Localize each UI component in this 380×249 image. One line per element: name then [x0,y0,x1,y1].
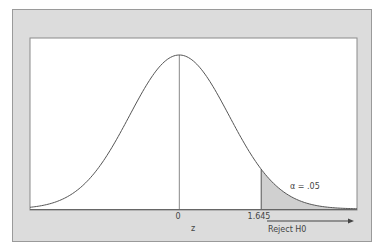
x-axis-label: z [191,224,195,233]
alpha-label: α = .05 [290,182,320,191]
arrow-right-icon [348,219,354,224]
tick-label-zero: 0 [175,212,180,221]
normal-curve-chart: 0 z 1.645 α = .05 Reject H0 [0,0,380,249]
tick-label-critical: 1.645 [248,212,271,221]
reject-h0-label: Reject H0 [268,225,306,234]
